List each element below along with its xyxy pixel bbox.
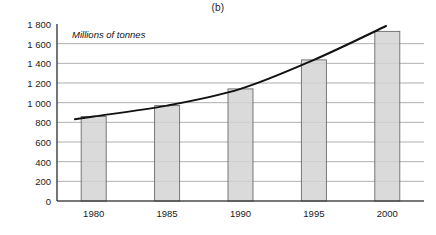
y-axis-tick-label: 1 200 — [2, 78, 51, 89]
y-axis-tick-label: 1 600 — [2, 38, 51, 49]
bar — [155, 106, 180, 201]
y-axis-tick-label: 0 — [2, 196, 51, 207]
y-axis-tick-label: 800 — [2, 117, 51, 128]
x-axis-tick-label: 1995 — [303, 208, 324, 219]
bar — [228, 89, 253, 201]
x-axis-tick-label: 1990 — [230, 208, 251, 219]
x-axis-tick-label: 2000 — [377, 208, 398, 219]
y-axis-tick-label: 1 400 — [2, 58, 51, 69]
bars-group — [81, 31, 400, 201]
y-axis-tick-label: 1 000 — [2, 97, 51, 108]
y-axis-tick-label: 600 — [2, 137, 51, 148]
x-axis-tick-label: 1980 — [83, 208, 104, 219]
x-axis-tick-label: 1985 — [157, 208, 178, 219]
y-axis-tick-label: 400 — [2, 156, 51, 167]
y-axis-tick-label: 200 — [2, 176, 51, 187]
bar — [81, 116, 106, 201]
y-axis-tick-label: 1 800 — [2, 19, 51, 30]
bar — [375, 31, 400, 201]
bar — [301, 60, 326, 201]
chart-figure: (b) Millions of tonnes 02004006008001 00… — [0, 0, 436, 235]
plot-area — [0, 0, 436, 235]
